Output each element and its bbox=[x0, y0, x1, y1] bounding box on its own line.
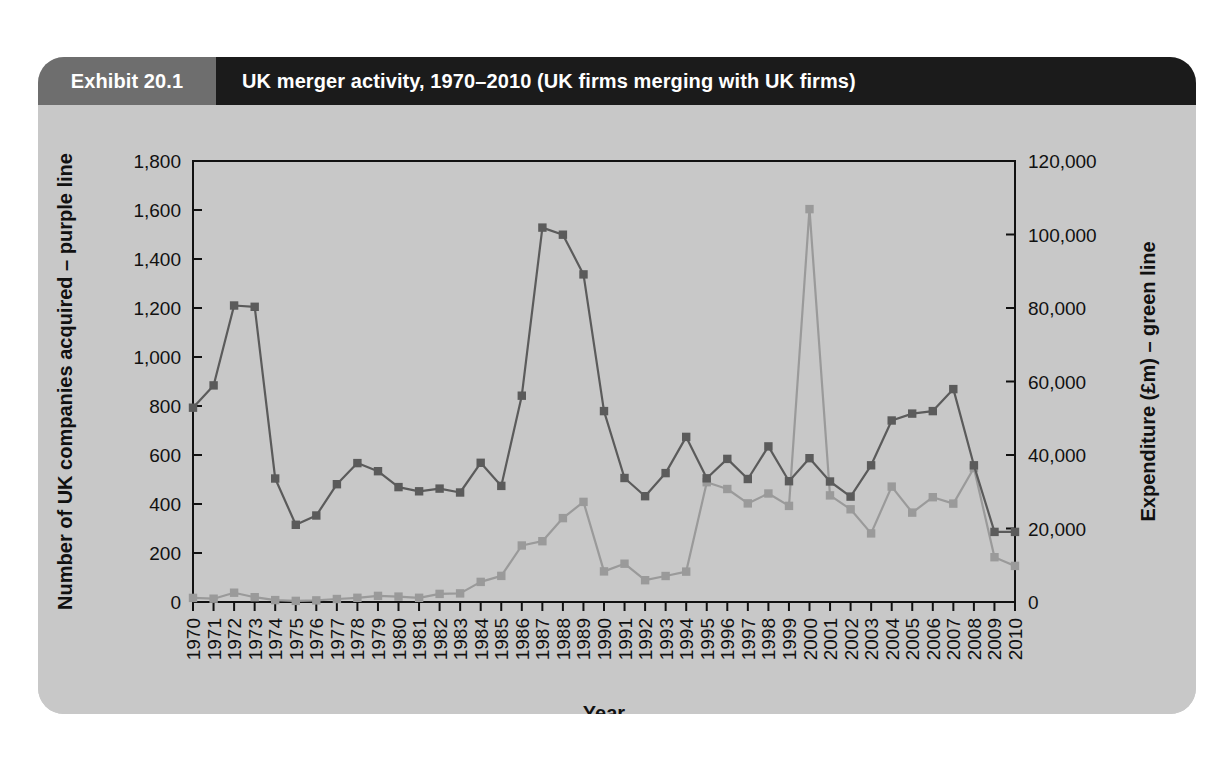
data-point-marker bbox=[723, 485, 731, 493]
data-point-marker bbox=[353, 594, 361, 602]
x-axis-tick-label: 1990 bbox=[594, 618, 615, 660]
data-point-marker bbox=[1011, 562, 1019, 570]
data-point-marker bbox=[744, 499, 752, 507]
chart-area: 02004006008001,0001,2001,4001,6001,80002… bbox=[38, 105, 1196, 714]
data-point-marker bbox=[826, 491, 834, 499]
data-point-marker bbox=[559, 514, 567, 522]
exhibit-title: UK merger activity, 1970–2010 (UK firms … bbox=[216, 57, 1196, 105]
left-axis-tick-label: 1,200 bbox=[133, 298, 181, 319]
right-axis-tick-label: 120,000 bbox=[1028, 151, 1097, 172]
x-axis-tick-label: 1994 bbox=[676, 618, 697, 661]
x-axis-tick-label: 1985 bbox=[491, 618, 512, 660]
data-point-marker bbox=[641, 492, 649, 500]
data-point-marker bbox=[292, 521, 300, 529]
data-point-marker bbox=[600, 567, 608, 575]
x-axis-tick-label: 1972 bbox=[224, 618, 245, 660]
plot-frame bbox=[193, 161, 1015, 602]
right-axis-tick-label: 60,000 bbox=[1028, 372, 1086, 393]
left-axis-tick-label: 400 bbox=[149, 494, 181, 515]
data-point-marker bbox=[888, 482, 896, 490]
x-axis-tick-label: 1988 bbox=[553, 618, 574, 660]
data-point-marker bbox=[846, 492, 854, 500]
data-point-marker bbox=[456, 589, 464, 597]
data-point-marker bbox=[538, 223, 546, 231]
data-point-marker bbox=[271, 474, 279, 482]
x-axis-title: Year bbox=[583, 702, 625, 714]
x-axis-tick-label: 1971 bbox=[204, 618, 225, 660]
data-point-marker bbox=[251, 303, 259, 311]
x-axis-tick-label: 1999 bbox=[779, 618, 800, 660]
data-point-marker bbox=[764, 489, 772, 497]
data-point-marker bbox=[661, 572, 669, 580]
data-point-marker bbox=[559, 231, 567, 239]
data-point-marker bbox=[641, 576, 649, 584]
data-point-marker bbox=[230, 301, 238, 309]
left-axis-tick-label: 1,400 bbox=[133, 249, 181, 270]
data-point-marker bbox=[333, 480, 341, 488]
data-point-marker bbox=[435, 590, 443, 598]
data-point-marker bbox=[374, 592, 382, 600]
x-axis-tick-label: 1982 bbox=[430, 618, 451, 660]
left-axis-title: Number of UK companies acquired – purple… bbox=[54, 153, 76, 610]
exhibit-header: Exhibit 20.1 UK merger activity, 1970–20… bbox=[38, 57, 1196, 105]
right-axis-tick-label: 80,000 bbox=[1028, 298, 1086, 319]
x-axis-tick-label: 1993 bbox=[656, 618, 677, 660]
right-axis-title: Expenditure (£m) – green line bbox=[1137, 241, 1159, 521]
data-point-marker bbox=[682, 433, 690, 441]
data-point-marker bbox=[805, 205, 813, 213]
data-point-marker bbox=[888, 416, 896, 424]
data-point-marker bbox=[271, 596, 279, 604]
exhibit-number-label: Exhibit 20.1 bbox=[38, 57, 216, 105]
left-axis-tick-label: 600 bbox=[149, 445, 181, 466]
data-point-marker bbox=[292, 597, 300, 605]
data-point-marker bbox=[703, 474, 711, 482]
x-axis-tick-label: 1978 bbox=[347, 618, 368, 660]
data-point-marker bbox=[785, 502, 793, 510]
left-axis-tick-label: 0 bbox=[170, 592, 181, 613]
data-point-marker bbox=[251, 593, 259, 601]
data-point-marker bbox=[435, 484, 443, 492]
x-axis-tick-label: 1998 bbox=[758, 618, 779, 660]
exhibit-figure: Exhibit 20.1 UK merger activity, 1970–20… bbox=[0, 0, 1229, 775]
data-point-marker bbox=[661, 469, 669, 477]
x-axis-tick-label: 1974 bbox=[265, 618, 286, 661]
data-point-marker bbox=[929, 493, 937, 501]
data-point-marker bbox=[785, 477, 793, 485]
data-point-marker bbox=[846, 505, 854, 513]
data-point-marker bbox=[415, 594, 423, 602]
x-axis-tick-label: 2003 bbox=[861, 618, 882, 660]
data-point-marker bbox=[600, 407, 608, 415]
x-axis-tick-label: 2007 bbox=[943, 618, 964, 660]
x-axis-tick-label: 2009 bbox=[984, 618, 1005, 660]
data-point-marker bbox=[990, 553, 998, 561]
data-point-marker bbox=[908, 508, 916, 516]
x-axis-tick-label: 2008 bbox=[964, 618, 985, 660]
data-point-marker bbox=[189, 594, 197, 602]
data-point-marker bbox=[764, 442, 772, 450]
data-point-marker bbox=[744, 475, 752, 483]
data-point-marker bbox=[209, 381, 217, 389]
x-axis-tick-label: 2002 bbox=[841, 618, 862, 660]
data-point-marker bbox=[456, 488, 464, 496]
left-axis-tick-label: 1,800 bbox=[133, 151, 181, 172]
data-point-marker bbox=[620, 474, 628, 482]
data-point-marker bbox=[312, 596, 320, 604]
left-axis-tick-label: 1,600 bbox=[133, 200, 181, 221]
data-point-marker bbox=[189, 404, 197, 412]
x-axis-tick-label: 1980 bbox=[389, 618, 410, 660]
data-point-marker bbox=[867, 529, 875, 537]
data-point-marker bbox=[415, 487, 423, 495]
data-point-marker bbox=[518, 541, 526, 549]
x-axis-tick-label: 1995 bbox=[697, 618, 718, 660]
x-axis-tick-label: 1991 bbox=[615, 618, 636, 660]
data-point-marker bbox=[970, 461, 978, 469]
right-axis-tick-label: 40,000 bbox=[1028, 445, 1086, 466]
x-axis-tick-label: 1981 bbox=[409, 618, 430, 660]
line-chart: 02004006008001,0001,2001,4001,6001,80002… bbox=[38, 105, 1196, 714]
data-point-marker bbox=[312, 511, 320, 519]
x-axis-tick-label: 2001 bbox=[820, 618, 841, 660]
x-axis-tick-label: 1970 bbox=[183, 618, 204, 660]
data-point-marker bbox=[333, 595, 341, 603]
x-axis-tick-label: 1976 bbox=[306, 618, 327, 660]
data-point-marker bbox=[1011, 528, 1019, 536]
